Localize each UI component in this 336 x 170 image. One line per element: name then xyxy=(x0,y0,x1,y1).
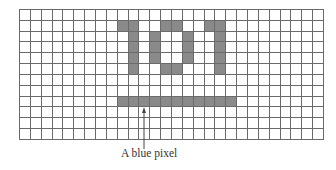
caption-label: A blue pixel xyxy=(121,147,177,159)
arrow-pointer-icon xyxy=(0,0,336,170)
